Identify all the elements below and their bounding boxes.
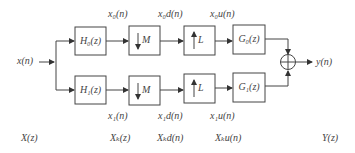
g1-label: G₁(z)	[233, 82, 265, 92]
signal-x0: x₀(n)	[108, 9, 128, 19]
domain-label-Y: Y(z)	[322, 133, 338, 143]
input-label: x(n)	[17, 56, 33, 66]
g0-label: G₀(z)	[233, 34, 265, 44]
downsample-top-label: M	[142, 35, 150, 45]
filter-bank-diagram	[0, 0, 355, 153]
signal-x0d: x₀d(n)	[158, 9, 183, 19]
upsample-bottom-label: L	[198, 83, 204, 93]
h1-label: H₁(z)	[75, 85, 106, 95]
domain-label-Xk: Xₖ(z)	[110, 133, 130, 143]
signal-x1u: x₁u(n)	[210, 111, 235, 121]
downsample-bottom-label: M	[142, 85, 150, 95]
h0-label: H₀(z)	[75, 36, 106, 46]
upsample-top-label: L	[198, 35, 204, 45]
domain-label-X: X(z)	[21, 133, 38, 143]
domain-label-Xku: Xₖu(n)	[215, 133, 241, 143]
signal-x1d: x₁d(n)	[158, 111, 183, 121]
domain-label-Xkd: Xₖd(n)	[157, 133, 183, 143]
signal-x0u: x₀u(n)	[210, 9, 235, 19]
output-label: y(n)	[316, 57, 332, 67]
signal-x1: x₁(n)	[108, 111, 128, 121]
